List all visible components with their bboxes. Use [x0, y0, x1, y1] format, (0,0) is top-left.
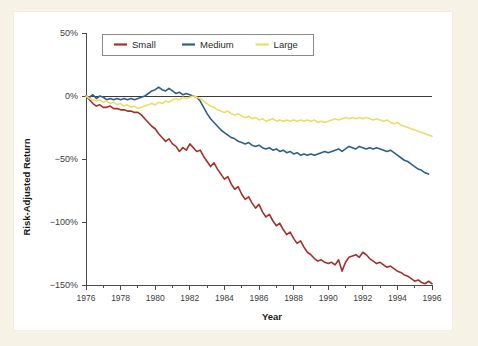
x-tick-label: 1982 [180, 293, 199, 303]
chart-legend[interactable]: SmallMediumLarge [102, 34, 313, 55]
x-tick-label: 1980 [146, 293, 165, 303]
legend-label-large: Large [274, 39, 298, 50]
x-axis-title: Year [262, 311, 282, 322]
x-tick-label: 1976 [77, 293, 96, 303]
chart-svg: 50%0%−50%−100%−150% 19761978198019821984… [14, 12, 452, 330]
x-tick-label: 1978 [111, 293, 130, 303]
y-tick-label: 50% [60, 28, 78, 38]
x-tick-label: 1994 [388, 293, 407, 303]
x-tick-label: 1992 [353, 293, 372, 303]
x-tick-label: 1986 [250, 293, 269, 303]
plot-background [14, 12, 452, 330]
x-tick-label: 1996 [423, 293, 442, 303]
x-tick-label: 1990 [319, 293, 338, 303]
y-tick-label: −50% [55, 154, 78, 164]
y-tick-label: 0% [65, 91, 78, 101]
legend-label-medium: Medium [200, 39, 234, 50]
y-tick-label: −100% [50, 217, 78, 227]
chart-card: 50%0%−50%−100%−150% 19761978198019821984… [14, 12, 452, 330]
legend-label-small: Small [132, 39, 156, 50]
x-tick-label: 1984 [215, 293, 234, 303]
y-axis-title: Risk-Adjusted Return [21, 138, 32, 235]
page-background: 50%0%−50%−100%−150% 19761978198019821984… [0, 0, 478, 346]
y-tick-label: −150% [50, 280, 78, 290]
x-tick-label: 1988 [284, 293, 303, 303]
risk-adjusted-return-line-chart: 50%0%−50%−100%−150% 19761978198019821984… [14, 12, 452, 330]
